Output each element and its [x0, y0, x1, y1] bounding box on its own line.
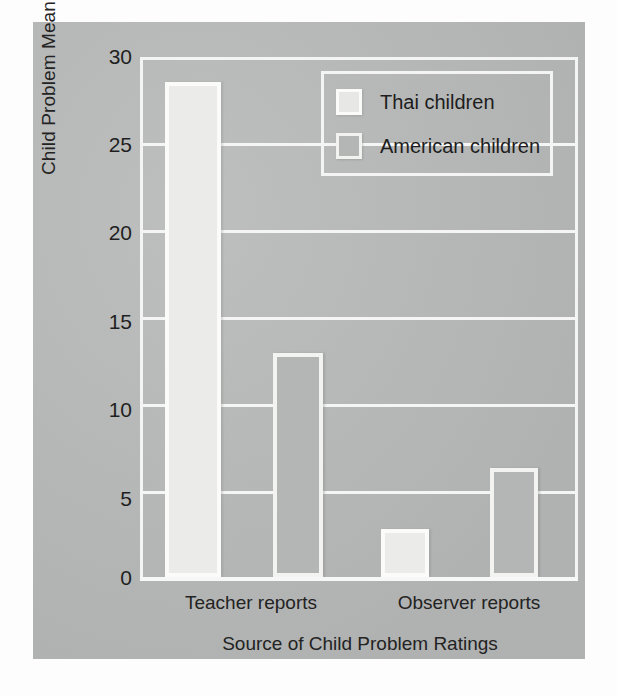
y-tick-30: 30 [92, 46, 132, 67]
legend-label-american: American children [380, 135, 540, 158]
y-tick-25: 25 [92, 134, 132, 155]
y-axis-title: Child Problem Mean Score [38, 0, 60, 175]
figure-canvas: Child Problem Mean Score 30 25 20 15 10 … [0, 0, 617, 696]
legend-entry-american: American children [336, 126, 540, 166]
x-tick-teacher-reports: Teacher reports [140, 592, 362, 614]
thai-swatch-icon [336, 89, 362, 115]
chart-legend: Thai children American children [321, 71, 553, 176]
x-axis-title: Source of Child Problem Ratings [140, 633, 580, 655]
legend-entry-thai: Thai children [336, 82, 495, 122]
plot-area: Thai children American children [140, 57, 578, 577]
bar-american-observer [490, 468, 538, 577]
american-swatch-icon [336, 133, 362, 159]
bar-american-teacher [273, 353, 323, 577]
y-tick-15: 15 [92, 311, 132, 332]
y-tick-20: 20 [92, 222, 132, 243]
legend-label-thai: Thai children [380, 91, 495, 114]
x-tick-observer-reports: Observer reports [360, 592, 578, 614]
bar-thai-teacher [165, 82, 221, 577]
y-tick-0: 0 [92, 567, 132, 588]
y-tick-5: 5 [92, 488, 132, 509]
x-axis-baseline [140, 577, 578, 581]
bar-thai-observer [381, 529, 429, 577]
y-tick-10: 10 [92, 399, 132, 420]
y-axis-tick-labels: 30 25 20 15 10 5 0 [88, 0, 132, 696]
